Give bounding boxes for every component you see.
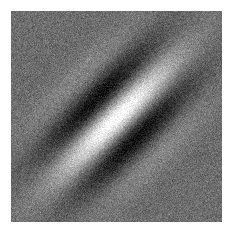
gabor-patch-image — [11, 11, 222, 222]
figure-root: Square grayscale noise image containing … — [0, 0, 233, 236]
